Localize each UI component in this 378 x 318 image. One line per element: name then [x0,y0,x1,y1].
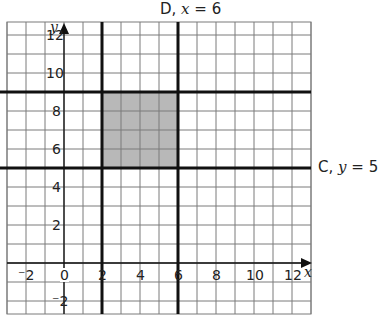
x-tick-label: 6 [174,268,183,282]
x-tick-label: 8 [212,268,221,282]
y-tick-label: 12 [46,28,64,42]
y-tick-label: 8 [52,104,61,118]
line-d-label: D, x = 6 [160,2,221,17]
x-tick-label: ⁻2 [18,268,34,282]
y-tick-label: 2 [52,218,61,232]
x-axis-label: x [304,265,312,279]
line-c-label: C, y = 5 [318,160,378,175]
x-tick-label: 2 [98,268,107,282]
x-tick-label: 4 [136,268,145,282]
y-tick-label: ⁻2 [52,294,68,308]
y-tick-label: 10 [46,66,64,80]
y-tick-label: 6 [52,142,61,156]
x-tick-label: 10 [246,268,264,282]
y-tick-label: 4 [52,180,61,194]
x-tick-label: 12 [284,268,302,282]
x-tick-label: 0 [60,268,69,282]
